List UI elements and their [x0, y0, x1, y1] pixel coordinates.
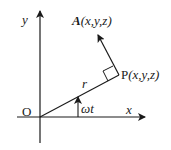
radius-label: r	[82, 77, 87, 90]
angle-label: ωt	[81, 102, 94, 115]
point-p-args: (x,y,z)	[128, 67, 159, 82]
x-axis-label: x	[126, 103, 132, 116]
point-a-args: (x,y,z)	[81, 13, 112, 28]
point-a-label: A(x,y,z)	[72, 14, 112, 27]
radius-line	[40, 75, 119, 117]
point-p-label: P(x,y,z)	[121, 68, 159, 81]
vector-a-arrow	[98, 35, 119, 75]
origin-label: O	[22, 105, 31, 118]
point-a-name: A	[72, 13, 81, 28]
y-axis-label: y	[22, 13, 28, 26]
